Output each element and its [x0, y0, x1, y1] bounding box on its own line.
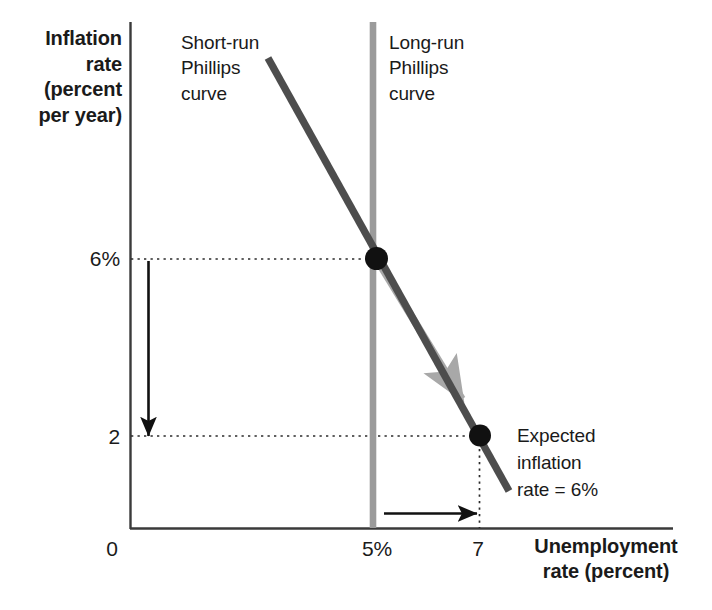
short-run-curve-label: Short-run Phillips curve	[181, 30, 259, 106]
x-tick-label-7: 7	[448, 536, 508, 561]
phillips-curve-figure: Inflation rate (percent per year) Unempl…	[0, 0, 712, 610]
origin-tick-label: 0	[82, 536, 142, 561]
x-axis-title: Unemployment rate (percent)	[502, 534, 710, 584]
dotted-guides	[131, 259, 482, 528]
y-tick-label-6: 6%	[58, 246, 120, 271]
new-equilibrium-marker	[469, 425, 491, 447]
y-tick-label-2: 2	[58, 424, 120, 449]
initial-equilibrium-marker	[365, 247, 388, 270]
long-run-curve-label: Long-run Phillips curve	[389, 30, 464, 106]
x-tick-label-5: 5%	[340, 536, 414, 561]
y-axis-title: Inflation rate (percent per year)	[0, 26, 122, 128]
short-run-phillips-curve	[268, 58, 509, 491]
expected-inflation-label: Expected inflation rate = 6%	[517, 423, 598, 504]
